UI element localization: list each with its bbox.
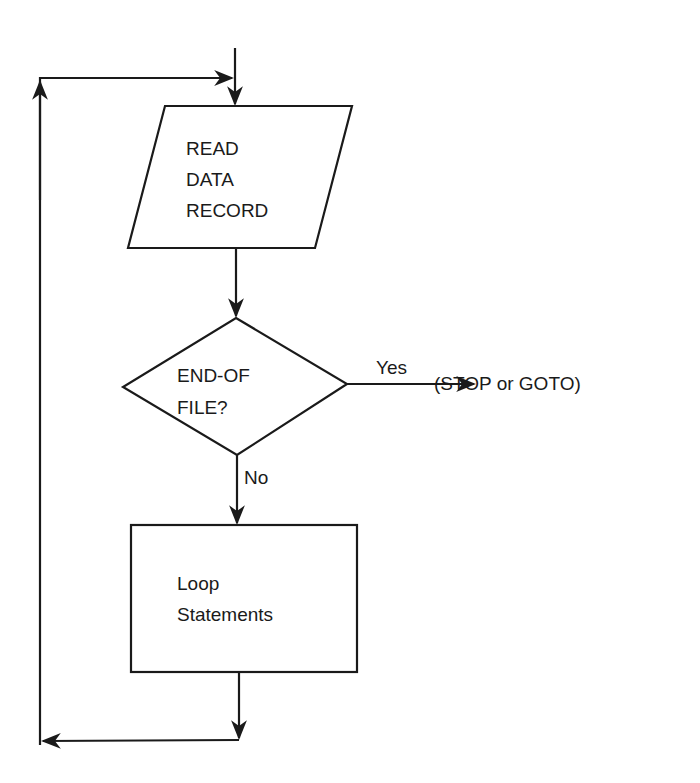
- read-line-2: DATA: [186, 164, 268, 195]
- yes-target-label: (STOP or GOTO): [434, 372, 581, 396]
- process-text: Loop Statements: [177, 568, 273, 630]
- yes-label: Yes: [376, 356, 407, 380]
- process-line-2: Statements: [177, 599, 273, 630]
- process-line-1: Loop: [177, 568, 273, 599]
- decision-line-1: END-OF: [177, 360, 250, 392]
- read-line-3: RECORD: [186, 195, 268, 226]
- decision-text: END-OF FILE?: [177, 360, 250, 424]
- no-label: No: [244, 466, 268, 490]
- read-line-1: READ: [186, 133, 268, 164]
- decision-line-2: FILE?: [177, 392, 250, 424]
- return-line: [43, 740, 239, 741]
- flowchart-canvas: [0, 0, 700, 783]
- read-node-text: READ DATA RECORD: [186, 133, 268, 226]
